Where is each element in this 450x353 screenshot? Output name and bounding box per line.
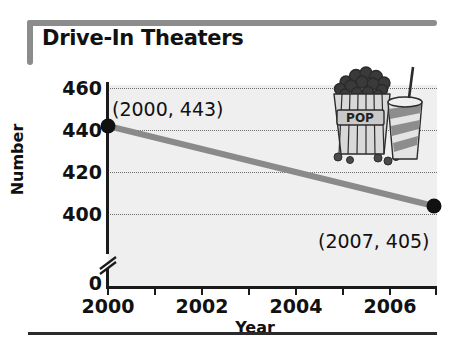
x-tick-2001	[154, 286, 156, 295]
x-tick-2007	[435, 286, 437, 295]
y-tick-460: 460	[46, 79, 102, 98]
x-tick-2000	[107, 286, 109, 295]
x-tick-2004	[295, 286, 297, 295]
x-tick-2002	[201, 286, 203, 295]
y-tick-400: 400	[46, 205, 102, 224]
gridline-400	[108, 214, 437, 215]
y-tick-420: 420	[46, 163, 102, 182]
bottom-divider	[28, 332, 437, 335]
x-tick-label-2002: 2002	[176, 297, 229, 316]
annotation-2000: (2000, 443)	[112, 100, 224, 119]
x-tick-2003	[248, 286, 250, 295]
x-tick-label-2006: 2006	[364, 297, 417, 316]
x-tick-label-2004: 2004	[270, 297, 323, 316]
x-tick-2006	[389, 286, 391, 295]
gridline-420	[108, 172, 437, 173]
title-frame-left-rule	[27, 20, 33, 65]
y-tick-zero: 0	[46, 274, 102, 293]
y-tick-440: 440	[46, 121, 102, 140]
annotation-2007: (2007, 405)	[318, 232, 430, 251]
popcorn-and-drink-icon: POP	[316, 62, 428, 167]
y-axis-title: Number	[8, 115, 27, 205]
x-tick-2005	[342, 286, 344, 295]
y-axis-line	[106, 82, 109, 254]
svg-text:POP: POP	[346, 111, 374, 125]
x-tick-label-2000: 2000	[82, 297, 135, 316]
